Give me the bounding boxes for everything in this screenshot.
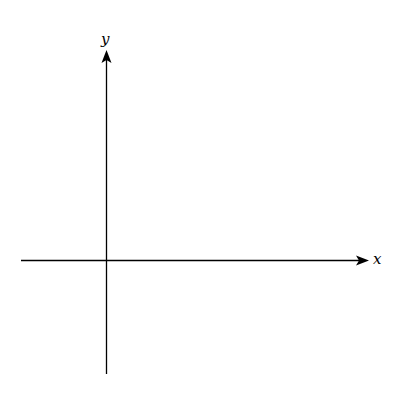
y-axis-label: y <box>101 30 109 48</box>
coordinate-plane: x y <box>0 0 400 399</box>
x-axis-label: x <box>373 250 381 268</box>
axes-drawing <box>0 0 400 399</box>
